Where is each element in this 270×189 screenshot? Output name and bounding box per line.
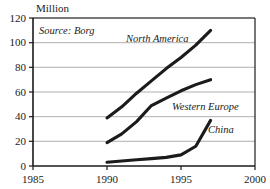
series-label-china: China (208, 124, 234, 135)
line-chart: Million (0, 0, 270, 189)
series-label-western-europe: Western Europe (172, 101, 239, 112)
y-tick-label-40: 40 (15, 110, 27, 122)
x-tick-label-2000: 2000 (244, 173, 267, 185)
y-tick-label-100: 100 (10, 36, 27, 48)
x-tick-label-1985: 1985 (22, 173, 45, 185)
source-annotation: Source: Borg (39, 25, 95, 36)
y-tick-label-120: 120 (10, 12, 27, 24)
y-tick-label-60: 60 (15, 86, 27, 98)
series-label-north-america: North America (125, 33, 189, 44)
y-tick-label-20: 20 (15, 135, 27, 147)
y-tick-label-80: 80 (15, 61, 27, 73)
chart-container: Million (0, 0, 270, 189)
y-axis-unit-label: Million (36, 2, 70, 14)
x-tick-label-1995: 1995 (170, 173, 193, 185)
x-tick-label-1990: 1990 (96, 173, 119, 185)
y-tick-label-0: 0 (21, 160, 27, 172)
